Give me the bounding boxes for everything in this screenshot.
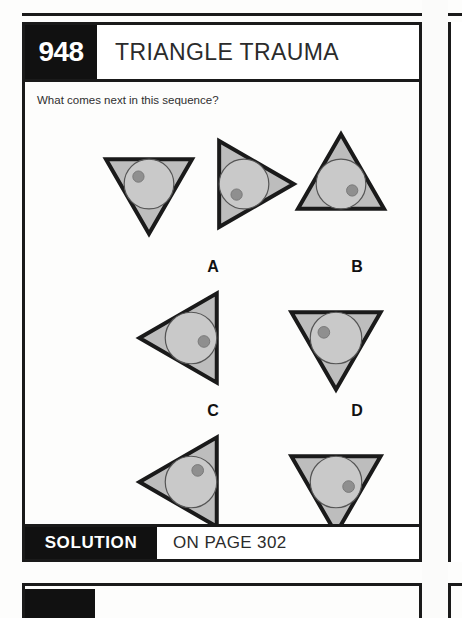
next-puzzle-number-badge [25, 589, 95, 618]
option-a[interactable] [135, 282, 247, 394]
sequence-figure-3 [287, 130, 395, 238]
sequence-figure-1-svg [95, 130, 203, 238]
inner-circle-shape [219, 159, 269, 209]
sequence-figure-3-svg [287, 130, 395, 238]
option-d-label: D [342, 402, 372, 420]
option-c-label: C [198, 402, 228, 420]
option-d[interactable] [280, 426, 392, 524]
option-d-svg [280, 426, 392, 524]
sequence-figure-2-svg [190, 130, 298, 238]
marker-dot-shape [198, 336, 210, 348]
inner-circle-shape [165, 456, 217, 508]
option-b-svg [280, 282, 392, 394]
marker-dot-shape [231, 189, 242, 200]
puzzle-title: TRIANGLE TRAUMA [97, 25, 419, 79]
option-c[interactable] [135, 426, 247, 524]
next-puzzle-right-edge [419, 586, 422, 618]
puzzle-number-badge: 948 [25, 25, 97, 79]
solution-page-reference: ON PAGE 302 [157, 527, 419, 559]
puzzle-footer: SOLUTION ON PAGE 302 [25, 524, 419, 559]
option-a-label: A [198, 258, 228, 276]
marker-dot-shape [192, 465, 204, 477]
option-a-svg [135, 282, 247, 394]
puzzle-body: What comes next in this sequence? ABCD [25, 82, 419, 524]
marker-dot-shape [318, 327, 330, 339]
puzzle-page: 948 TRIANGLE TRAUMA What comes next in t… [0, 0, 462, 618]
inner-circle-shape [124, 159, 174, 209]
next-puzzle-top-rule [22, 583, 422, 586]
puzzle-header: 948 TRIANGLE TRAUMA [25, 25, 419, 82]
sequence-figure-1 [95, 130, 203, 238]
inner-circle-shape [310, 312, 362, 364]
marker-dot-shape [347, 185, 358, 196]
inner-circle-shape [310, 456, 362, 508]
sequence-figure-2 [190, 130, 298, 238]
puzzle-card: 948 TRIANGLE TRAUMA What comes next in t… [22, 22, 422, 562]
column-gutter [422, 0, 448, 618]
next-column-lower-edge [448, 586, 451, 618]
solution-tag: SOLUTION [25, 527, 157, 559]
option-b[interactable] [280, 282, 392, 394]
next-column-left-edge [448, 22, 451, 562]
marker-dot-shape [133, 171, 144, 182]
column-top-rule [22, 13, 422, 16]
marker-dot-shape [343, 481, 355, 493]
inner-circle-shape [316, 159, 366, 209]
next-column-body [451, 22, 462, 562]
column-top-rule-right [448, 13, 462, 16]
option-b-label: B [342, 258, 372, 276]
option-c-svg [135, 426, 247, 524]
figure-layer: ABCD [25, 82, 419, 524]
